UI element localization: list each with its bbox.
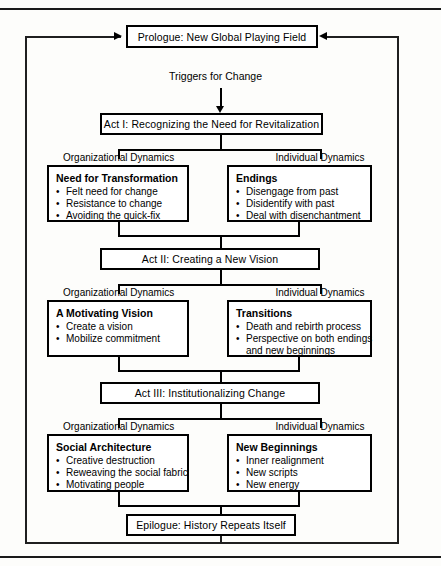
act-1-split-bar (118, 149, 322, 151)
transformation-flowchart: Prologue: New Global Playing Field Trigg… (0, 0, 441, 566)
list-item: Deal with disenchantment (236, 210, 370, 222)
trigger-arrow-head (216, 106, 224, 113)
loop-line-top-left-horizontal (25, 36, 121, 38)
epilogue-box[interactable]: Epilogue: History Repeats Itself (126, 514, 296, 536)
page-rule-bottom (0, 556, 441, 558)
act-2-organizational-title: A Motivating Vision (56, 307, 187, 320)
list-item: Inner realignment (236, 455, 370, 467)
act-3-merge-left-stem (118, 492, 120, 506)
act-1-organizational-list: Felt need for change Resistance to chang… (56, 186, 187, 223)
act-1-organizational-title: Need for Transformation (56, 172, 187, 185)
act-3-organizational-title: Social Architecture (56, 441, 187, 454)
act-3-merge-right-stem (298, 492, 300, 506)
list-item: Disengage from past (236, 186, 370, 198)
act-3-organizational-box[interactable]: Social Architecture Creative destruction… (47, 434, 189, 492)
triggers-for-change-label: Triggers for Change (169, 70, 262, 82)
act-2-caption-organizational: Organizational Dynamics (63, 287, 173, 298)
act-1-individual-title: Endings (236, 172, 370, 185)
act-3-individual-title: New Beginnings (236, 441, 370, 454)
act-3-split-bar (118, 418, 322, 420)
loop-arrow-into-prologue-right (319, 32, 327, 40)
loop-line-bottom-horizontal (25, 542, 399, 544)
act-2-caption-individual: Individual Dynamics (265, 287, 375, 298)
act-2-title: Act II: Creating a New Vision (102, 250, 318, 268)
prologue-label: Prologue: New Global Playing Field (128, 27, 316, 46)
act-1-individual-list: Disengage from past Disidentify with pas… (236, 186, 370, 223)
list-item: Perspective on both endings and new begi… (236, 333, 374, 357)
act-1-merge-right-stem (298, 222, 300, 236)
act-1-organizational-box[interactable]: Need for Transformation Felt need for ch… (47, 165, 189, 222)
act-2-merge-left-stem (118, 357, 120, 371)
act-1-caption-organizational: Organizational Dynamics (63, 152, 173, 163)
act-2-split-bar (118, 284, 322, 286)
act-1-merge-bar (118, 235, 300, 237)
act-1-merge-left-stem (118, 222, 120, 236)
act-2-box[interactable]: Act II: Creating a New Vision (100, 248, 320, 270)
act-3-split-stem (220, 404, 222, 419)
trigger-arrow-line (220, 88, 222, 108)
act-3-caption-individual: Individual Dynamics (265, 421, 375, 432)
list-item: Avoiding the quick-fix (56, 210, 187, 222)
list-item: Mobilize commitment (56, 333, 187, 345)
act-1-title: Act I: Recognizing the Need for Revitali… (102, 115, 321, 133)
act-3-individual-box[interactable]: New Beginnings Inner realignment New scr… (227, 434, 372, 492)
list-item: Death and rebirth process (236, 321, 370, 333)
act-3-box[interactable]: Act III: Institutionalizing Change (100, 382, 320, 404)
act-2-merge-right-stem (298, 357, 300, 371)
act-2-individual-list: Death and rebirth process Perspective on… (236, 321, 370, 358)
act-1-box[interactable]: Act I: Recognizing the Need for Revitali… (100, 113, 323, 135)
act-3-organizational-list: Creative destruction Reweaving the socia… (56, 455, 187, 492)
act-2-organizational-box[interactable]: A Motivating Vision Create a vision Mobi… (47, 300, 189, 357)
act-2-merge-bar (118, 370, 300, 372)
epilogue-label: Epilogue: History Repeats Itself (128, 516, 294, 534)
act-1-merge-to-act-2 (220, 235, 222, 249)
list-item: Creative destruction (56, 455, 187, 467)
loop-line-top-right-horizontal (327, 36, 399, 38)
act-1-caption-individual: Individual Dynamics (265, 152, 375, 163)
act-2-individual-box[interactable]: Transitions Death and rebirth process Pe… (227, 300, 372, 357)
list-item: New energy (236, 479, 370, 491)
list-item: Felt need for change (56, 186, 187, 198)
list-item: Create a vision (56, 321, 187, 333)
page-rule-top (0, 8, 441, 10)
act-2-organizational-list: Create a vision Mobilize commitment (56, 321, 187, 345)
act-2-individual-title: Transitions (236, 307, 370, 320)
act-3-individual-list: Inner realignment New scripts New energy (236, 455, 370, 492)
prologue-box[interactable]: Prologue: New Global Playing Field (126, 25, 318, 48)
loop-line-right-vertical (397, 36, 399, 544)
list-item: New scripts (236, 467, 370, 479)
act-3-title: Act III: Institutionalizing Change (102, 384, 318, 402)
act-2-split-stem (220, 270, 222, 285)
act-1-split-stem (220, 135, 222, 150)
loop-line-left-vertical (25, 36, 27, 544)
act-1-individual-box[interactable]: Endings Disengage from past Disidentify … (227, 165, 372, 222)
list-item: Resistance to change (56, 198, 187, 210)
act-3-caption-organizational: Organizational Dynamics (63, 421, 173, 432)
list-item: Disidentify with past (236, 198, 370, 210)
list-item: Reweaving the social fabric (56, 467, 187, 479)
loop-arrow-into-prologue-left (114, 32, 122, 40)
act-3-merge-bar (118, 505, 300, 507)
list-item: Motivating people (56, 479, 187, 491)
